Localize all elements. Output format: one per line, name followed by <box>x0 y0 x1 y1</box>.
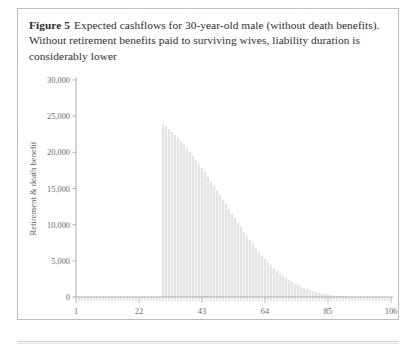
bar <box>180 141 182 297</box>
x-tick-label: 106 <box>385 307 398 316</box>
bar <box>255 249 257 297</box>
bar <box>198 164 200 297</box>
bar <box>171 132 173 297</box>
bar <box>186 148 188 297</box>
bar <box>309 291 311 297</box>
y-tick-label: 20,000 <box>47 148 70 157</box>
bar <box>315 293 317 297</box>
bar <box>234 219 236 297</box>
page-divider-rule-secondary <box>17 343 399 344</box>
bar <box>201 168 203 297</box>
y-tick-label: 30,000 <box>47 76 70 85</box>
bar <box>222 200 224 297</box>
bar <box>279 274 281 297</box>
x-tick-label: 43 <box>198 307 206 316</box>
bar <box>231 214 233 297</box>
bar <box>303 288 305 297</box>
y-axis-title: Retirement & death benefit <box>28 141 38 235</box>
bar <box>285 278 287 297</box>
bar <box>216 191 218 297</box>
bar <box>276 271 278 297</box>
y-tick-label: 10,000 <box>47 221 70 230</box>
bar <box>300 287 302 297</box>
bar <box>267 263 269 297</box>
y-tick-label: 25,000 <box>47 112 70 121</box>
bar <box>165 127 167 297</box>
y-tick-label: 0 <box>66 293 70 302</box>
bar <box>246 236 248 297</box>
bar <box>210 181 212 297</box>
bar <box>297 286 299 297</box>
bar <box>282 276 284 297</box>
bar <box>204 173 206 297</box>
bars-group <box>162 124 347 297</box>
bar <box>249 241 251 297</box>
bar <box>225 205 227 297</box>
bar <box>312 292 314 297</box>
y-tick-label: 15,000 <box>47 185 70 194</box>
bar <box>228 209 230 297</box>
bar <box>318 293 320 297</box>
expected-cashflows-bar-chart: 05,00010,00015,00020,00025,00030,0001224… <box>18 9 400 321</box>
x-tick-label: 85 <box>324 307 332 316</box>
x-axis-ticks: 122436485106 <box>74 297 397 316</box>
bar <box>237 223 239 297</box>
bar <box>294 284 296 297</box>
x-tick-label: 22 <box>135 307 143 316</box>
y-axis-ticks: 05,00010,00015,00020,00025,00030,000 <box>47 76 76 302</box>
bar <box>273 269 275 297</box>
bar <box>174 135 176 297</box>
bar <box>168 129 170 297</box>
bar <box>264 259 266 297</box>
figure-border-box: Figure 5Expected cashflows for 30-year-o… <box>17 8 399 320</box>
figure-root: Figure 5Expected cashflows for 30-year-o… <box>0 0 420 357</box>
bar <box>270 266 272 297</box>
bar <box>288 281 290 297</box>
bar <box>258 252 260 297</box>
y-tick-label: 5,000 <box>51 257 70 266</box>
bar <box>213 186 215 297</box>
bar <box>252 245 254 297</box>
bar <box>243 232 245 297</box>
bar <box>240 228 242 297</box>
bar <box>306 290 308 297</box>
bar <box>195 160 197 297</box>
bar <box>207 177 209 297</box>
x-tick-label: 64 <box>261 307 270 316</box>
bar <box>189 152 191 297</box>
bar <box>177 138 179 297</box>
bar <box>219 195 221 297</box>
bar <box>321 294 323 297</box>
bar <box>162 124 164 297</box>
bar <box>291 282 293 297</box>
bar <box>192 156 194 297</box>
page-divider-rule <box>17 341 399 342</box>
x-tick-label: 1 <box>74 307 78 316</box>
bar <box>183 145 185 297</box>
bar <box>261 256 263 297</box>
chart-plot-area: 05,00010,00015,00020,00025,00030,0001224… <box>18 9 400 321</box>
